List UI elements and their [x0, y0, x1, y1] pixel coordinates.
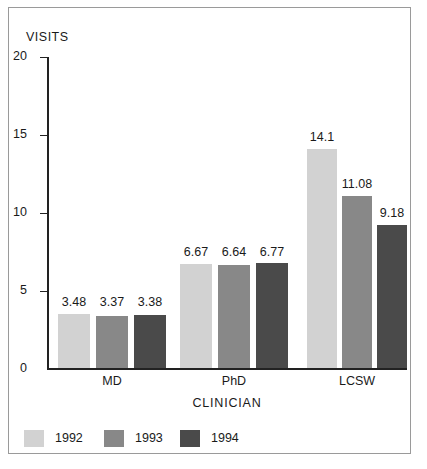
bar-value-md-1994: 3.38	[124, 296, 176, 309]
bar-value-phd-1994: 6.77	[246, 246, 298, 259]
y-tick-15: 15	[0, 135, 47, 136]
y-tick-label-0: 0	[0, 362, 27, 375]
group-label-lcsw: LCSW	[307, 374, 407, 388]
bar-phd-1992	[180, 264, 212, 368]
legend-swatch-1994	[180, 430, 200, 447]
bar-phd-1993	[218, 265, 250, 368]
bar-md-1992	[58, 314, 90, 368]
bar-value-lcsw-1993: 11.08	[331, 178, 383, 191]
bar-md-1994	[134, 315, 166, 368]
bar-md-1993	[96, 316, 128, 368]
y-tick-0: 0	[0, 369, 47, 370]
legend-label-1994: 1994	[211, 431, 239, 445]
bar-value-lcsw-1994: 9.18	[366, 207, 418, 220]
y-tick-label-10: 10	[0, 206, 27, 219]
plot-area: VISITS 20 15 10 5 0 3.48 3.37 3.38	[0, 0, 427, 469]
legend-item-1994: 1994	[180, 428, 239, 448]
bar-chart-figure: VISITS 20 15 10 5 0 3.48 3.37 3.38	[0, 0, 427, 469]
y-tick-label-15: 15	[0, 128, 27, 141]
legend-swatch-1992	[24, 430, 44, 447]
y-tick-5: 5	[0, 291, 47, 292]
legend-label-1992: 1992	[55, 431, 83, 445]
legend-swatch-1993	[104, 430, 124, 447]
y-tick-label-20: 20	[0, 50, 27, 63]
legend-item-1992: 1992	[24, 428, 83, 448]
group-label-phd: PhD	[184, 374, 284, 388]
y-tick-20: 20	[0, 57, 47, 58]
bar-lcsw-1993	[342, 196, 372, 368]
legend-item-1993: 1993	[104, 428, 163, 448]
bar-value-lcsw-1992: 14.1	[296, 131, 348, 144]
y-tick-10: 10	[0, 213, 47, 214]
x-axis-title: CLINICIAN	[47, 396, 407, 410]
bar-lcsw-1994	[377, 225, 407, 368]
legend-label-1993: 1993	[135, 431, 163, 445]
bar-phd-1994	[256, 263, 288, 368]
group-label-md: MD	[62, 374, 162, 388]
x-axis-line	[47, 368, 407, 370]
y-axis-title: VISITS	[26, 30, 69, 44]
y-tick-label-5: 5	[0, 284, 27, 297]
